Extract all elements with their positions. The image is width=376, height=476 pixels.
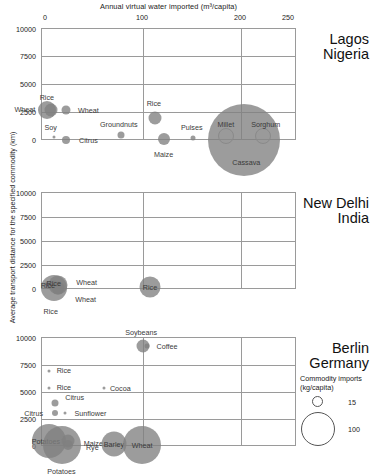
panel-title-newdelhi: New Delhi India bbox=[303, 196, 369, 226]
p2-y-tick-7500: 7500 bbox=[2, 213, 36, 222]
bubble-label-cassava-0-9: Cassava bbox=[232, 158, 260, 167]
x-tick-200: 200 bbox=[225, 13, 255, 22]
p1-y-tick-0: 0 bbox=[2, 136, 36, 145]
p1-y-tick-2500: 2500 bbox=[2, 108, 36, 117]
p3-y-tick-7500: 7500 bbox=[2, 361, 36, 370]
panel-newdelhi-india bbox=[41, 192, 296, 289]
gridline-5000 bbox=[42, 392, 295, 393]
legend-value-large: 100 bbox=[348, 425, 360, 434]
gridline-7500 bbox=[42, 365, 295, 366]
legend-circle-large bbox=[301, 412, 335, 446]
size-legend: Commodity imports (kg/capita) 15 100 bbox=[300, 374, 376, 392]
gridline-7500 bbox=[42, 217, 295, 218]
p3-y-tick-2500: 2500 bbox=[2, 415, 36, 424]
legend-title-line1: Commodity imports bbox=[300, 374, 376, 383]
panel-city-berlin: Berlin bbox=[332, 340, 369, 356]
x-axis-title: Annual virtual water imported (m³/capita… bbox=[41, 2, 296, 11]
panel-lagos-nigeria bbox=[41, 28, 296, 140]
panel-city-newdelhi: New Delhi bbox=[303, 195, 369, 211]
p3-y-tick-10000: 10000 bbox=[2, 334, 36, 343]
x-tick-0: 0 bbox=[30, 13, 60, 22]
p2-y-tick-2500: 2500 bbox=[2, 261, 36, 270]
p2-y-tick-5000: 5000 bbox=[2, 237, 36, 246]
legend-value-small: 15 bbox=[348, 398, 356, 407]
p1-y-tick-10000: 10000 bbox=[2, 25, 36, 34]
p2-y-tick-10000: 10000 bbox=[2, 189, 36, 198]
panel-city-lagos: Lagos bbox=[329, 31, 369, 47]
p1-y-tick-7500: 7500 bbox=[2, 52, 36, 61]
gridline-5000 bbox=[42, 241, 295, 242]
p2-y-tick-0: 0 bbox=[2, 285, 36, 294]
bubble-label-soybeans-2-0: Soybeans bbox=[125, 327, 157, 336]
panel-title-lagos: Lagos Nigeria bbox=[323, 32, 369, 62]
gridline-x100 bbox=[143, 193, 144, 288]
gridline-x200 bbox=[241, 193, 242, 288]
gridline-2500 bbox=[42, 265, 295, 266]
p3-y-tick-5000: 5000 bbox=[2, 388, 36, 397]
gridline-x200 bbox=[241, 338, 242, 445]
panel-country-germany: Germany bbox=[309, 355, 369, 371]
bubble-label-wheat-1-2: Wheat bbox=[75, 295, 96, 304]
gridline-x100 bbox=[143, 29, 144, 139]
panel-country-nigeria: Nigeria bbox=[323, 46, 369, 62]
figure-root: Annual virtual water imported (m³/capita… bbox=[0, 0, 376, 476]
bubble-label-potatoes-2-9: Potatoes bbox=[47, 466, 75, 475]
panel-berlin-germany bbox=[41, 337, 296, 446]
x-tick-250: 250 bbox=[273, 13, 303, 22]
p1-y-tick-5000: 5000 bbox=[2, 80, 36, 89]
gridline-x200 bbox=[241, 29, 242, 139]
gridline-2500 bbox=[42, 112, 295, 113]
gridline-7500 bbox=[42, 56, 295, 57]
gridline-5000 bbox=[42, 84, 295, 85]
panel-country-india: India bbox=[338, 210, 369, 226]
bubble-label-maize-0-7: Maize bbox=[154, 149, 173, 158]
legend-circle-small bbox=[312, 396, 323, 407]
panel-title-berlin: Berlin Germany bbox=[309, 341, 369, 371]
bubble-label-rice-1-0: Rice bbox=[44, 306, 58, 315]
p3-y-tick-0: 0 bbox=[2, 442, 36, 451]
x-tick-100: 100 bbox=[127, 13, 157, 22]
gridline-x100 bbox=[143, 338, 144, 445]
gridline-2500 bbox=[42, 419, 295, 420]
legend-title-line2: (kg/capita) bbox=[300, 383, 376, 392]
